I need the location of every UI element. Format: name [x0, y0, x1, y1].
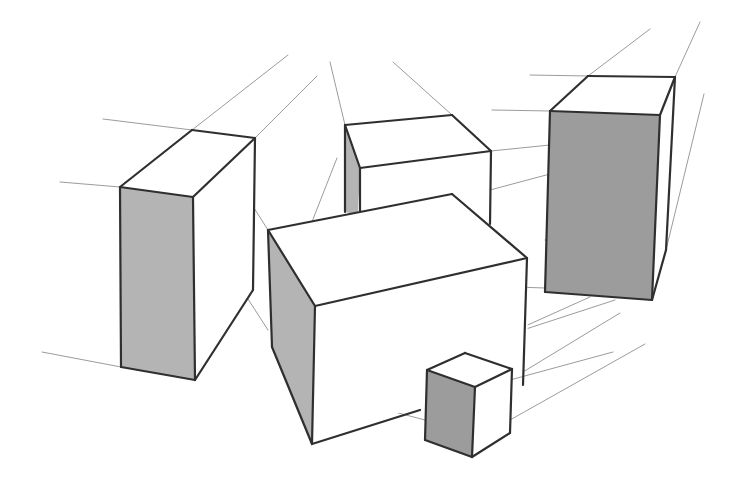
guide-line [523, 300, 615, 330]
guide-line [490, 174, 550, 190]
guide-line [510, 344, 645, 420]
guide-line [330, 62, 345, 125]
guide-line [393, 62, 452, 115]
left-tall-box [120, 130, 255, 380]
guide-line [530, 75, 588, 76]
box-edge [588, 76, 675, 77]
guide-line [103, 119, 192, 130]
box-edge [120, 187, 121, 367]
box-face-light [550, 76, 675, 115]
box-edge [490, 151, 491, 224]
guide-line [675, 22, 700, 77]
box-face-dark [545, 111, 660, 300]
guide-line [60, 182, 120, 187]
small-cube [425, 353, 512, 457]
right-tall-box [545, 76, 675, 300]
boxes-group [120, 76, 675, 457]
guide-line [42, 352, 121, 367]
perspective-boxes-sketch: Two-point perspective sketch of boxes [0, 0, 741, 489]
guide-line [255, 76, 317, 138]
guide-line [491, 145, 550, 151]
guide-line [588, 29, 650, 76]
box-face-shade [120, 187, 195, 380]
guide-line [492, 110, 550, 111]
